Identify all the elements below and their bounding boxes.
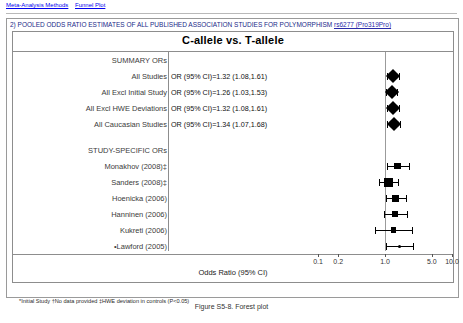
row-label: All Excl HWE Deviations xyxy=(86,104,167,113)
tab-funnel-plot[interactable]: Funnel Plot xyxy=(75,2,105,8)
x-tick xyxy=(452,254,453,257)
row-label: All Caucasian Studies xyxy=(94,120,167,129)
panel-title: 2) POOLED ODDS RATIO ESTIMATES OF ALL PU… xyxy=(10,21,391,28)
ci-cap xyxy=(375,227,376,234)
row-label: Hoenicka (2006) xyxy=(112,194,167,203)
panel-title-link[interactable]: rs6277 (Pro319Pro) xyxy=(334,21,391,28)
x-tick-label: 0.1 xyxy=(313,258,323,265)
plot-box: C-allele vs. T-allele SUMMARY ORsAll Stu… xyxy=(12,31,454,283)
ci-cap xyxy=(407,211,408,218)
group-header: STUDY-SPECIFIC ORs xyxy=(88,146,167,155)
summary-diamond-marker xyxy=(385,85,399,99)
row-label: Hanninen (2006) xyxy=(111,210,167,219)
row-label: •Lawford (2005) xyxy=(114,242,167,251)
x-axis-title: Odds Ratio (95% CI) xyxy=(13,268,453,277)
ci-cap xyxy=(386,195,387,202)
x-tick xyxy=(432,254,433,257)
x-tick-label: 0.2 xyxy=(333,258,343,265)
top-tab-bar: Meta-Analysis Methods Funnel Plot xyxy=(6,2,457,15)
study-square-marker xyxy=(391,227,397,233)
forest-row xyxy=(318,192,452,204)
forest-row xyxy=(318,86,452,98)
tab-meta-analysis-methods[interactable]: Meta-Analysis Methods xyxy=(6,2,68,8)
x-tick xyxy=(318,254,319,257)
row-label: All Studies xyxy=(132,72,167,81)
forest-plot-panel: 2) POOLED ODDS RATIO ESTIMATES OF ALL PU… xyxy=(6,18,459,298)
study-square-marker xyxy=(394,163,401,170)
x-tick-label: 5.0 xyxy=(427,258,437,265)
row-label: Monakhov (2008)‡ xyxy=(104,162,167,171)
row-label-column: SUMMARY ORsAll StudiesAll Excl Initial S… xyxy=(13,52,173,252)
panel-title-text: 2) POOLED ODDS RATIO ESTIMATES OF ALL PU… xyxy=(10,21,334,28)
x-tick xyxy=(385,254,386,257)
forest-graph-area xyxy=(318,52,452,251)
forest-row xyxy=(318,70,452,82)
row-stat: OR (95% CI)=1.32 (1.08,1.61) xyxy=(171,72,267,81)
ci-cap xyxy=(398,179,399,186)
row-label: Kukreti (2006) xyxy=(120,226,167,235)
study-square-marker xyxy=(384,178,393,187)
ci-cap xyxy=(386,243,387,250)
forest-row xyxy=(318,118,452,130)
ci-cap xyxy=(412,227,413,234)
forest-row xyxy=(318,240,452,252)
summary-diamond-marker xyxy=(386,69,400,83)
ci-cap xyxy=(384,211,385,218)
study-square-marker xyxy=(392,211,398,217)
study-dot-marker xyxy=(398,245,401,248)
forest-row xyxy=(318,208,452,220)
ci-cap xyxy=(379,179,380,186)
chart-title: C-allele vs. T-allele xyxy=(13,34,453,46)
x-axis-line xyxy=(13,254,453,255)
forest-row xyxy=(318,224,452,236)
summary-diamond-marker xyxy=(386,101,400,115)
label-stat-divider xyxy=(168,52,169,251)
row-stat: OR (95% CI)=1.26 (1.03,1.53) xyxy=(171,88,267,97)
ci-cap xyxy=(387,163,388,170)
topbar-divider xyxy=(6,13,457,14)
forest-row xyxy=(318,160,452,172)
study-square-marker xyxy=(392,195,399,202)
figure-caption: Figure S5-8. Forest plot xyxy=(0,303,463,310)
ci-cap xyxy=(413,243,414,250)
stat-text-column: OR (95% CI)=1.32 (1.08,1.61)OR (95% CI)=… xyxy=(171,52,316,252)
ci-cap xyxy=(409,163,410,170)
forest-row xyxy=(318,102,452,114)
ci-cap xyxy=(406,195,407,202)
x-tick-label: 1.0 xyxy=(380,258,390,265)
group-header: SUMMARY ORs xyxy=(112,56,167,65)
x-tick xyxy=(338,254,339,257)
forest-row xyxy=(318,176,452,188)
x-tick-label: 10.0 xyxy=(445,258,459,265)
row-label: All Excl Initial Study xyxy=(102,88,167,97)
row-stat: OR (95% CI)=1.32 (1.08,1.61) xyxy=(171,104,267,113)
row-stat: OR (95% CI)=1.34 (1.07,1.68) xyxy=(171,120,267,129)
summary-diamond-marker xyxy=(386,117,400,131)
row-label: Sanders (2008)‡ xyxy=(111,178,167,187)
